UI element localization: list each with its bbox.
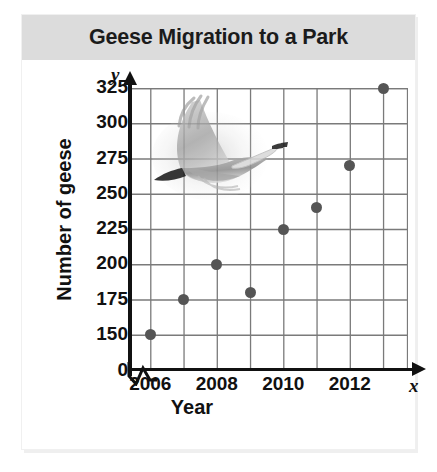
x-tick-label: 2012 xyxy=(326,373,374,395)
grid-lines xyxy=(132,88,408,370)
plot-grid-area xyxy=(132,88,408,370)
y-tick-labels: 3253002752502252001751500 xyxy=(42,60,128,380)
x-tick-labels: 2006200820102012 xyxy=(22,373,415,403)
y-tick-label: 175 xyxy=(62,288,128,310)
data-point xyxy=(211,259,222,270)
x-axis-line xyxy=(128,368,418,371)
x-axis-arrowhead xyxy=(412,362,426,376)
x-tick-label: 2010 xyxy=(259,373,307,395)
y-tick-label: 300 xyxy=(62,111,128,133)
chart-title-band: Geese Migration to a Park xyxy=(22,15,415,60)
data-point xyxy=(378,83,389,94)
data-point xyxy=(245,287,256,298)
y-tick-label: 225 xyxy=(62,217,128,239)
data-point xyxy=(278,224,289,235)
data-point xyxy=(178,294,189,305)
x-tick-label: 2008 xyxy=(193,373,241,395)
data-point xyxy=(145,329,156,340)
y-tick-label: 200 xyxy=(62,252,128,274)
chart-title: Geese Migration to a Park xyxy=(89,25,348,50)
chart-page: Geese Migration to a Park Number of gees… xyxy=(0,0,437,472)
y-axis-arrowhead xyxy=(123,71,137,85)
y-tick-label: 250 xyxy=(62,182,128,204)
y-tick-label: 325 xyxy=(62,76,128,98)
y-axis-line xyxy=(128,82,132,376)
y-tick-label: 150 xyxy=(62,323,128,345)
y-tick-label: 275 xyxy=(62,147,128,169)
plot-body: Number of geese Year y x 325300275250225… xyxy=(22,60,415,449)
axis-break-symbol xyxy=(126,360,160,386)
